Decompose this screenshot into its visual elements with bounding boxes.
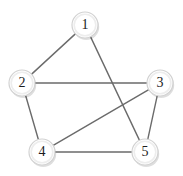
node-circle-3[interactable] [147, 70, 173, 96]
graph-edge-1-2 [31, 33, 76, 75]
node-circle-4[interactable] [29, 139, 55, 165]
graph-svg-canvas [0, 0, 183, 176]
graph-node-4[interactable] [29, 139, 56, 167]
edge-layer [25, 33, 157, 152]
graph-edge-2-4 [25, 95, 38, 141]
graph-node-3[interactable] [147, 70, 174, 98]
graph-edge-3-4 [52, 89, 149, 146]
node-circle-5[interactable] [132, 139, 158, 165]
graph-edge-3-5 [148, 95, 158, 141]
node-circle-1[interactable] [72, 12, 98, 38]
node-circle-2[interactable] [9, 70, 35, 96]
graph-node-1[interactable] [72, 12, 99, 40]
graph-node-2[interactable] [9, 70, 36, 98]
graph-edge-1-5 [90, 36, 140, 141]
graph-node-5[interactable] [132, 139, 159, 167]
node-layer [9, 12, 174, 167]
graph-diagram: 12345 [0, 0, 183, 176]
